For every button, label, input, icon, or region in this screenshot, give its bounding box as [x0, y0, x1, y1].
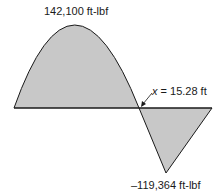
zero-crossing-value: = 15.28 ft	[158, 85, 207, 97]
arrow-head-icon	[141, 101, 146, 107]
min-moment-label: –119,364 ft-lbf	[131, 179, 201, 191]
max-moment-label: 142,100 ft-lbf	[44, 5, 108, 17]
negative-moment-region	[139, 108, 212, 173]
positive-moment-region	[14, 25, 139, 108]
zero-crossing-leader	[143, 93, 152, 104]
moment-diagram	[0, 0, 222, 196]
zero-crossing-label: x = 15.28 ft	[152, 85, 207, 97]
